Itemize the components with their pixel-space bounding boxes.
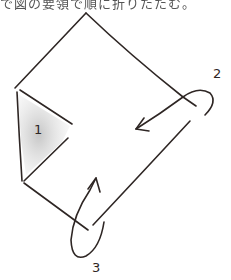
step-label-2: 2 xyxy=(213,66,221,81)
folding-diagram: 1 2 3 xyxy=(0,0,231,280)
step-label-1: 1 xyxy=(34,122,42,137)
top-right-edge xyxy=(86,13,196,106)
step-label-3: 3 xyxy=(92,260,100,275)
bottom-left-edge xyxy=(24,183,88,230)
fold-arrow-2 xyxy=(136,90,213,129)
top-left-edge xyxy=(15,13,86,88)
lower-right-edge xyxy=(93,121,190,225)
